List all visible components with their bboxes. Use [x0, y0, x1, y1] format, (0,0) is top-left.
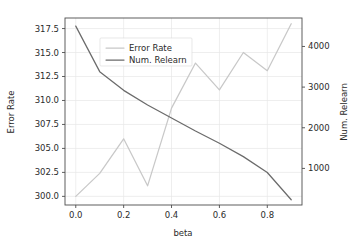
x-tick-label: 0.4: [165, 210, 179, 220]
y-axis-right-ticks: 1000200030004000: [302, 41, 330, 173]
y-tick-label: 317.5: [35, 24, 59, 34]
y2-tick-label: 1000: [308, 163, 330, 173]
chart-legend: Error RateNum. Relearn: [100, 38, 192, 66]
y-axis-left-title: Error Rate: [6, 91, 16, 134]
y2-tick-label: 3000: [308, 82, 330, 92]
y-tick-label: 315.0: [35, 48, 59, 58]
y-tick-label: 302.5: [35, 167, 59, 177]
x-tick-label: 0.8: [261, 210, 275, 220]
figure-canvas: 0.00.20.40.60.8 300.0302.5305.0307.5310.…: [0, 0, 357, 242]
y-tick-label: 300.0: [35, 191, 59, 201]
legend-label-1: Error Rate: [129, 43, 172, 53]
x-tick-label: 0.2: [117, 210, 131, 220]
y2-tick-label: 4000: [308, 41, 330, 51]
y-axis-right-title: Num. Relearn: [339, 83, 349, 141]
y-axis-left-ticks: 300.0302.5305.0307.5310.0312.5315.0317.5: [35, 24, 65, 202]
line-chart: 0.00.20.40.60.8 300.0302.5305.0307.5310.…: [0, 0, 357, 242]
y-tick-label: 312.5: [35, 71, 59, 81]
y-tick-label: 310.0: [35, 95, 59, 105]
y-tick-label: 307.5: [35, 119, 59, 129]
x-tick-label: 0.6: [213, 210, 227, 220]
y-tick-label: 305.0: [35, 143, 59, 153]
x-tick-label: 0.0: [69, 210, 83, 220]
y2-tick-label: 2000: [308, 123, 330, 133]
x-axis-title: beta: [173, 228, 192, 238]
x-axis-ticks: 0.00.20.40.60.8: [69, 205, 274, 220]
legend-label-2: Num. Relearn: [129, 55, 187, 65]
